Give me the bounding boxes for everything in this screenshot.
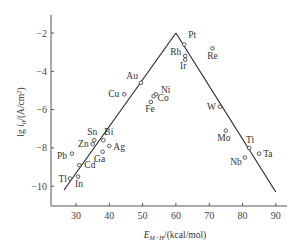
y-tick-label: −6 — [36, 104, 47, 115]
point-label-ga: Ga — [94, 154, 106, 164]
x-tick-label: 70 — [204, 210, 214, 221]
volcano-plot: 30405060708090−2−4−6−8−10PtRhIrReAuNiCoC… — [0, 0, 302, 248]
data-point-cd — [78, 163, 82, 167]
x-axis-title: EM−H/(kcal/mol) — [143, 230, 207, 241]
point-label-fe: Fe — [145, 104, 155, 114]
data-point-sn — [93, 138, 97, 142]
data-point-rh — [183, 54, 187, 58]
point-label-mo: Mo — [217, 133, 230, 143]
point-label-cd: Cd — [84, 160, 95, 170]
point-label-cu: Cu — [108, 89, 119, 99]
point-label-ta: Ta — [263, 149, 273, 159]
x-tick-label: 90 — [271, 210, 281, 221]
point-label-sn: Sn — [87, 127, 97, 137]
point-label-ag: Ag — [113, 142, 125, 152]
y-tick-label: −10 — [31, 181, 47, 192]
data-point-zn — [91, 142, 95, 146]
volcano-right-line — [176, 33, 276, 192]
y-axis-title: lg i0/(A/cm2) — [15, 87, 28, 136]
point-label-bi: Bi — [104, 127, 113, 137]
x-tick-label: 60 — [171, 210, 181, 221]
data-point-nb — [243, 156, 247, 160]
data-point-bi — [102, 138, 106, 142]
data-point-au — [139, 81, 143, 85]
point-label-pb: Pb — [57, 151, 67, 161]
y-tick-label: −8 — [36, 142, 47, 153]
x-tick-label: 30 — [71, 210, 81, 221]
x-tick-label: 50 — [138, 210, 148, 221]
point-label-co: Co — [158, 93, 169, 103]
data-point-ti — [247, 146, 251, 150]
point-label-zn: Zn — [78, 139, 89, 149]
point-label-in: In — [75, 179, 83, 189]
point-label-au: Au — [126, 71, 138, 81]
point-label-ir: Ir — [180, 61, 187, 71]
point-label-pt: Pt — [188, 30, 196, 40]
y-tick-label: −2 — [36, 28, 47, 39]
data-point-cu — [122, 92, 126, 96]
data-point-pt — [182, 43, 186, 47]
point-label-ti: Ti — [246, 135, 254, 145]
data-point-pb — [70, 152, 74, 156]
data-point-ag — [108, 144, 112, 148]
point-label-nb: Nb — [230, 157, 242, 167]
data-point-w — [218, 105, 222, 109]
data-point-co — [152, 94, 156, 98]
y-tick-label: −4 — [36, 66, 47, 77]
data-point-tl — [68, 177, 72, 181]
point-label-tl: Tl — [59, 174, 68, 184]
point-label-w: W — [207, 102, 216, 112]
x-tick-label: 40 — [104, 210, 114, 221]
point-label-re: Re — [207, 51, 218, 61]
data-point-ta — [257, 152, 261, 156]
data-point-re — [211, 47, 215, 51]
point-label-rh: Rh — [170, 47, 181, 57]
x-tick-label: 80 — [238, 210, 248, 221]
